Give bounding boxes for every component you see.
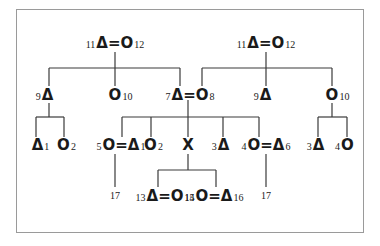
node-d2: 17: [261, 191, 271, 201]
node-number: 16: [233, 193, 243, 203]
couple-symbol: O=Δ: [103, 138, 140, 153]
node-right-parents: 11 Δ=O 12: [236, 36, 297, 51]
male-symbol: Δ: [260, 88, 272, 103]
node-c5: 4 O=Δ 6: [241, 138, 292, 153]
node-c1: 5 O=Δ 1: [96, 138, 147, 153]
node-number: 6: [285, 142, 290, 152]
deceased-symbol: X: [182, 138, 194, 153]
male-symbol: Δ: [42, 88, 54, 103]
couple-symbol: O=Δ: [248, 138, 285, 153]
node-number: 12: [285, 40, 295, 50]
node-number: 10: [122, 92, 132, 102]
couple-symbol: Δ=O: [172, 88, 209, 103]
node-number: 4: [335, 142, 340, 152]
male-symbol: Δ: [313, 138, 325, 153]
node-number: 4: [242, 142, 247, 152]
node-number: 17: [110, 191, 120, 201]
node-number: 9: [36, 92, 41, 102]
node-number: 2: [71, 142, 76, 152]
node-l-couple: 7 Δ=O 8: [165, 88, 216, 103]
node-c2: O 2: [144, 138, 164, 153]
node-number: 10: [339, 92, 349, 102]
node-r1: 3 Δ: [306, 138, 325, 153]
node-l-son: 9 Δ: [35, 88, 54, 103]
node-number: 14: [185, 193, 195, 203]
node-number: 9: [254, 92, 259, 102]
node-r-son: 9 Δ: [253, 88, 272, 103]
node-l-daughter: O 10: [109, 88, 134, 103]
node-number: 11: [237, 40, 247, 50]
node-left-parents: 11 Δ=O 12: [85, 36, 146, 51]
node-r-daughter: O 10: [326, 88, 351, 103]
female-symbol: O: [326, 88, 339, 103]
node-g1: Δ 1: [32, 138, 51, 153]
node-c4: 3 Δ: [211, 138, 230, 153]
female-symbol: O: [341, 138, 354, 153]
node-number: 11: [86, 40, 96, 50]
node-number: 12: [134, 40, 144, 50]
node-d1: 17: [110, 191, 120, 201]
female-symbol: O: [109, 88, 122, 103]
node-number: 7: [166, 92, 171, 102]
node-number: 3: [307, 142, 312, 152]
couple-symbol: Δ=O: [147, 189, 184, 204]
female-symbol: O: [144, 138, 157, 153]
female-symbol: O: [57, 138, 70, 153]
node-number: 17: [261, 191, 271, 201]
node-number: 3: [212, 142, 217, 152]
male-symbol: Δ: [218, 138, 230, 153]
node-number: 8: [209, 92, 214, 102]
node-number: 5: [97, 142, 102, 152]
couple-symbol: Δ=O: [96, 36, 133, 51]
male-symbol: Δ: [32, 138, 44, 153]
node-r2: 4 O: [334, 138, 354, 153]
node-number: 2: [158, 142, 163, 152]
node-g2: O 2: [57, 138, 77, 153]
couple-symbol: O=Δ: [196, 189, 233, 204]
node-number: 1: [44, 142, 49, 152]
couple-symbol: Δ=O: [247, 36, 284, 51]
node-x2: 14 O=Δ 16: [184, 189, 245, 204]
kinship-lines: [0, 0, 380, 246]
node-c3: X: [182, 138, 194, 153]
node-number: 13: [136, 193, 146, 203]
